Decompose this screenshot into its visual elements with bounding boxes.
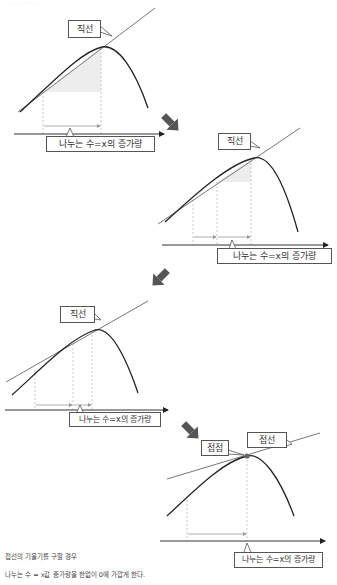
caption-line-1: 접선의 기울기를 구할 경우 [5, 551, 77, 561]
diagram-canvas [0, 0, 337, 585]
shaded-triangle [43, 48, 101, 92]
label-pointer [228, 450, 244, 455]
line-label-1: 직선 [68, 20, 101, 38]
diagram-4 [160, 433, 325, 552]
curve [167, 456, 294, 516]
transition-arrow-2 [147, 265, 173, 291]
curve [12, 330, 138, 395]
axis-label-3: 나누는 수=x의 증가량 [69, 412, 161, 427]
label-pointer [250, 141, 260, 148]
caption-line-2: 나누는 수 = x값 증가량을 한없이 0에 가깝게 한다. [5, 569, 145, 579]
label-pointer [95, 314, 101, 320]
tangent-line-label: 접선 [247, 432, 287, 448]
label-pointer [100, 26, 112, 36]
transition-arrow-1 [158, 110, 184, 136]
axis-label-1: 나누는 수=x의 증가량 [46, 136, 155, 152]
label-pointer [244, 543, 251, 552]
line-label-2: 직선 [218, 133, 251, 150]
tangent-line [167, 433, 320, 479]
axis-label-2: 나누는 수=x의 증가량 [217, 248, 332, 264]
line-label-3: 직선 [60, 306, 95, 323]
shaded-triangle [217, 159, 251, 182]
tangent-point [244, 453, 249, 458]
curve [165, 158, 298, 232]
tangent-point-label: 접점 [201, 440, 229, 456]
axis-label-4: 나누는 수=x의 증가량 [234, 552, 323, 568]
